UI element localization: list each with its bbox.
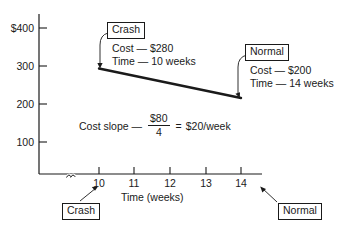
normal-callout-cost: Cost — $200 bbox=[250, 64, 311, 77]
axis-break-icon bbox=[67, 175, 76, 177]
x-tick-marks bbox=[99, 167, 241, 174]
y-tick-label-200: 200 bbox=[0, 99, 34, 110]
x-tick-label-10: 10 bbox=[89, 178, 109, 189]
y-tick-label-100: 100 bbox=[0, 137, 34, 148]
x-tick-label-11: 11 bbox=[124, 178, 144, 189]
cost-time-line bbox=[99, 69, 241, 99]
formula-equals: = bbox=[176, 120, 182, 132]
crash-callout-time: Time — 10 weeks bbox=[112, 55, 196, 68]
formula-numerator: $80 bbox=[148, 113, 170, 125]
formula-result: $20/week bbox=[186, 120, 231, 132]
formula-lead: Cost slope — bbox=[79, 120, 142, 132]
x-tick-label-12: 12 bbox=[160, 178, 180, 189]
cost-slope-formula: Cost slope — $80 4 = $20/week bbox=[79, 113, 231, 138]
normal-marker-arrow bbox=[260, 186, 277, 202]
x-tick-label-13: 13 bbox=[196, 178, 216, 189]
crash-callout-cost: Cost — $280 bbox=[112, 42, 173, 55]
bottom-marker-normal: Normal bbox=[278, 203, 322, 220]
crash-callout-title: Crash bbox=[107, 22, 145, 39]
cost-time-tradeoff-chart: $400 300 200 100 10 11 12 13 14 Time (we… bbox=[0, 0, 346, 233]
bottom-marker-crash: Crash bbox=[62, 203, 100, 220]
normal-callout-time: Time — 14 weeks bbox=[250, 77, 334, 90]
formula-denominator: 4 bbox=[154, 126, 164, 138]
x-tick-label-14: 14 bbox=[231, 178, 251, 189]
y-tick-label-300: 300 bbox=[0, 61, 34, 72]
normal-callout-title: Normal bbox=[245, 44, 289, 61]
y-tick-marks bbox=[39, 28, 47, 142]
formula-fraction: $80 4 bbox=[148, 113, 170, 138]
y-tick-label-400: $400 bbox=[0, 23, 34, 34]
normal-leader-line bbox=[235, 55, 247, 98]
x-axis-title: Time (weeks) bbox=[121, 192, 184, 203]
